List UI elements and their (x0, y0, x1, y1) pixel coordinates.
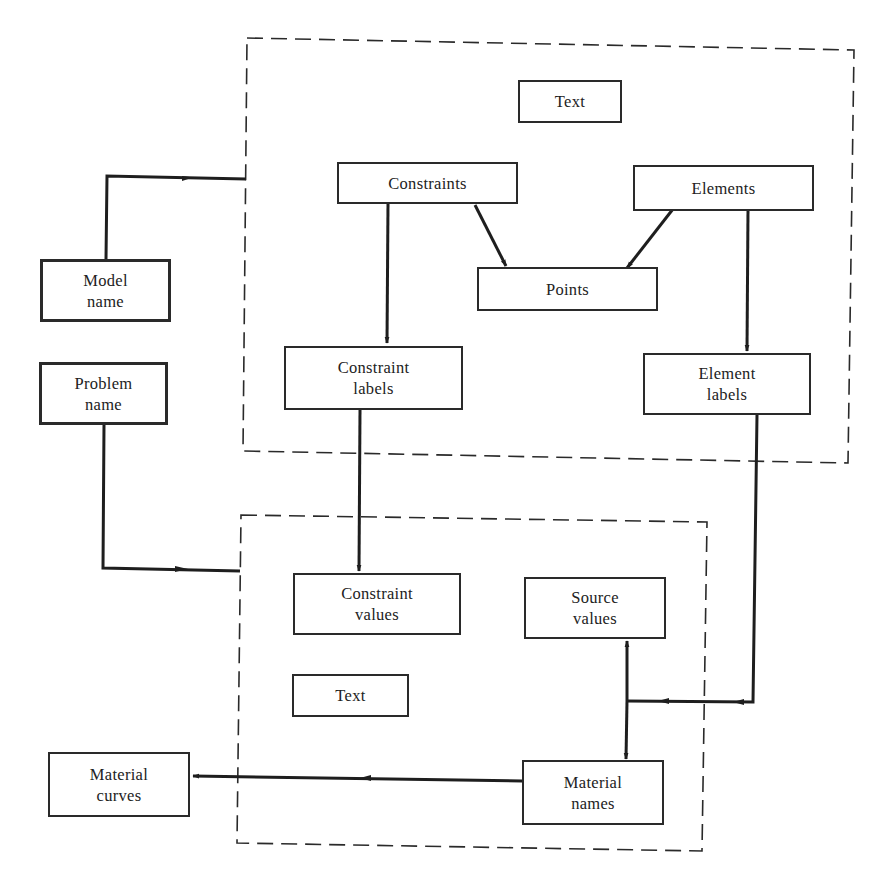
node-label: Text (335, 685, 365, 706)
edge-constraints-to-constraint-labels (387, 204, 388, 343)
node-elements: Elements (633, 165, 814, 211)
node-label: Text (555, 91, 585, 112)
node-problem-name: Problem name (39, 362, 168, 425)
node-label-line-2: values (573, 608, 617, 629)
connector-layer (0, 0, 884, 877)
edge-junction-to-material-names (626, 701, 627, 759)
edge-elements-to-points (627, 209, 673, 268)
node-label-line-1: Element (698, 363, 755, 384)
node-label: Points (546, 279, 589, 300)
edge-problem-to-lower (103, 425, 240, 571)
node-label-line-1: Material (90, 764, 148, 785)
edge-element-labels-to-junction (627, 415, 757, 702)
node-label-line-2: curves (97, 785, 142, 806)
node-constraints: Constraints (337, 162, 518, 204)
node-label: Constraints (388, 173, 466, 194)
node-label-line-2: labels (353, 378, 393, 399)
node-label-line-2: name (85, 394, 122, 415)
node-material-curves: Material curves (48, 752, 190, 817)
node-label-line-1: Constraint (338, 357, 410, 378)
node-label-line-1: Constraint (341, 583, 413, 604)
node-label-line-1: Source (571, 587, 619, 608)
node-text-upper: Text (518, 80, 622, 123)
node-label-line-2: name (87, 291, 124, 312)
node-points: Points (477, 267, 658, 311)
edge-material-names-to-curves (193, 776, 522, 781)
node-label-line-2: labels (707, 384, 747, 405)
node-label-line-1: Material (564, 772, 622, 793)
node-label: Elements (692, 178, 756, 199)
node-label-line-1: Model (83, 270, 128, 291)
node-label-line-2: values (355, 604, 399, 625)
edge-constraint-labels-to-values (359, 410, 360, 571)
node-text-lower: Text (292, 674, 409, 717)
node-constraint-values: Constraint values (293, 573, 461, 635)
edge-elements-to-element-labels (747, 210, 748, 351)
node-label-line-1: Problem (74, 373, 132, 394)
node-material-names: Material names (522, 760, 664, 825)
node-source-values: Source values (524, 577, 666, 639)
node-constraint-labels: Constraint labels (284, 346, 463, 410)
node-model-name: Model name (40, 259, 171, 322)
arrowhead-icon (733, 699, 744, 705)
node-element-labels: Element labels (643, 353, 811, 415)
node-label-line-2: names (571, 793, 615, 814)
edge-constraints-to-points (475, 205, 506, 266)
edge-model-to-upper (106, 176, 246, 259)
arrowhead-icon (658, 698, 669, 704)
